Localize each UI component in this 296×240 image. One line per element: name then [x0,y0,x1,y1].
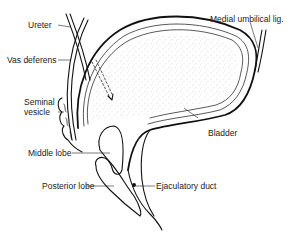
label-seminal-vesicle-1: Seminal [24,97,55,107]
label-bladder: Bladder [208,128,237,138]
prostate [96,126,162,230]
ejaculatory-duct-opening [132,183,136,187]
label-posterior-lobe: Posterior lobe [42,181,95,191]
label-ureter: Ureter [28,20,52,30]
label-seminal-vesicle-2: vesicle [24,107,50,117]
label-medial-umbilical-lig: Medial umbilical lig. [210,14,284,24]
bladder-prostate-diagram: Ureter Vas deferens Seminal vesicle Midd… [0,0,296,240]
label-ejaculatory-duct: Ejaculatory duct [156,181,217,191]
label-middle-lobe: Middle lobe [28,148,72,158]
bladder [77,17,256,171]
label-vas-deferens: Vas deferens [7,55,56,65]
